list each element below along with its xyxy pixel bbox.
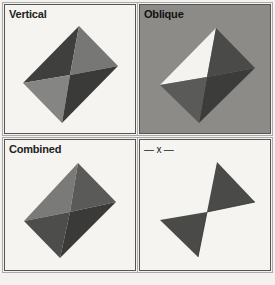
shaded-pyramid-combined <box>5 140 137 272</box>
face-bottom-left <box>160 212 207 257</box>
face-top-right <box>207 162 255 212</box>
face-bottom-left <box>23 75 70 123</box>
shaded-pyramid-x <box>140 140 272 272</box>
shaded-pyramid-vertical <box>5 5 137 135</box>
panel-vertical: Vertical <box>4 4 136 134</box>
panel-oblique: Oblique <box>139 4 271 134</box>
shaded-pyramid-oblique <box>140 5 272 135</box>
panel-x: — x — <box>139 139 271 271</box>
face-bottom-left <box>160 77 207 123</box>
panel-combined: Combined <box>4 139 136 271</box>
